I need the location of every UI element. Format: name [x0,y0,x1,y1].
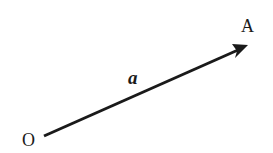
endpoint-label: A [241,16,254,36]
origin-label: O [22,130,35,150]
vector-arrow-oa [44,50,238,136]
vector-label: a [128,67,138,88]
vector-diagram: O A a [0,0,273,153]
vector-canvas: O A a [0,0,273,153]
